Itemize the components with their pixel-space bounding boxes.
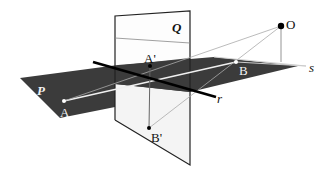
label-r: r — [217, 91, 223, 106]
label-a-prime: A' — [144, 51, 156, 66]
projection-diagram: P Q A B A' B' O r s — [0, 0, 328, 175]
label-a: A — [60, 105, 70, 120]
label-s: s — [309, 60, 314, 75]
label-b-prime: B' — [151, 130, 162, 145]
label-b: B — [239, 63, 248, 78]
label-q: Q — [172, 20, 182, 35]
label-p: P — [37, 83, 46, 98]
label-o: O — [286, 17, 295, 32]
point-b — [234, 60, 238, 64]
point-a — [62, 99, 66, 103]
plane-q-front-lower — [115, 84, 190, 165]
point-o — [278, 23, 284, 29]
